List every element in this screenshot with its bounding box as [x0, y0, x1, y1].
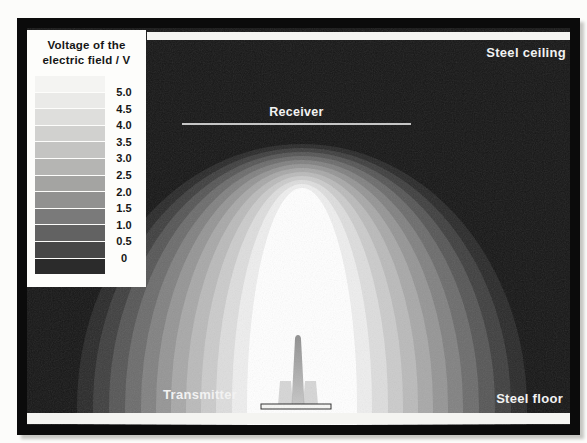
legend-colorbar [35, 76, 105, 275]
legend-title-line2: electric field / V [27, 53, 146, 68]
receiver-label: Receiver [182, 105, 411, 119]
steel-ceiling-bar [147, 32, 570, 40]
scanned-figure-page: Steel ceiling Steel floor Transmitter Re… [0, 0, 587, 443]
legend-title: Voltage of the electric field / V [27, 38, 146, 68]
legend-value: 2.0 [107, 184, 141, 201]
legend-swatch [35, 225, 105, 241]
steel-floor-label: Steel floor [496, 391, 563, 406]
legend-value: 5.0 [107, 84, 141, 101]
legend-swatch [35, 142, 105, 158]
voltage-legend-panel: Voltage of the electric field / V [27, 30, 146, 287]
legend-value: 2.5 [107, 167, 141, 184]
receiver-electrode-line [182, 123, 411, 125]
legend-value: 0.5 [107, 233, 141, 250]
transmitter-label: Transmitter [163, 387, 237, 402]
legend-swatch [35, 76, 105, 92]
legend-swatch [35, 159, 105, 175]
legend-value: 0 [107, 250, 141, 267]
legend-swatch [35, 93, 105, 109]
field-area: Steel ceiling Steel floor Transmitter Re… [27, 28, 570, 425]
legend-swatch [35, 259, 105, 275]
steel-ceiling-label: Steel ceiling [486, 45, 566, 60]
legend-swatch [35, 192, 105, 208]
legend-value: 3.5 [107, 134, 141, 151]
legend-value: 4.5 [107, 101, 141, 118]
legend-value: 4.0 [107, 117, 141, 134]
legend-value: 3.0 [107, 150, 141, 167]
legend-swatch [35, 126, 105, 142]
legend-swatch [35, 109, 105, 125]
legend-value-labels: 5.0 4.5 4.0 3.5 3.0 2.5 2.0 1.5 1.0 0.5 … [107, 84, 141, 267]
legend-value: 1.5 [107, 200, 141, 217]
figure-frame: Steel ceiling Steel floor Transmitter Re… [17, 18, 580, 435]
steel-floor-bar [27, 413, 570, 424]
legend-swatch [35, 242, 105, 258]
legend-value: 1.0 [107, 217, 141, 234]
legend-swatch [35, 209, 105, 225]
legend-swatch [35, 176, 105, 192]
legend-title-line1: Voltage of the [27, 38, 146, 53]
